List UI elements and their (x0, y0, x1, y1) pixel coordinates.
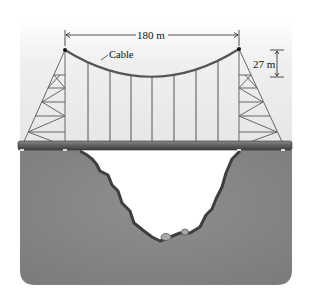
ground-canyon (20, 150, 292, 285)
deck-bearing (281, 149, 285, 151)
boulder (161, 234, 171, 241)
deck-bearing (237, 149, 241, 151)
bridge-diagram: 180 m 27 m Cable (0, 0, 311, 297)
bridge-deck (18, 141, 292, 150)
boulder (182, 229, 189, 235)
left-cable-anchor (63, 48, 67, 52)
deck-bearing (63, 149, 67, 151)
cable-label: Cable (109, 50, 134, 61)
right-cable-anchor (237, 47, 241, 51)
deck-bearing (20, 149, 24, 151)
span-label: 180 m (137, 30, 165, 41)
sag-label: 27 m (253, 59, 275, 70)
bridge-drawing (0, 0, 311, 297)
